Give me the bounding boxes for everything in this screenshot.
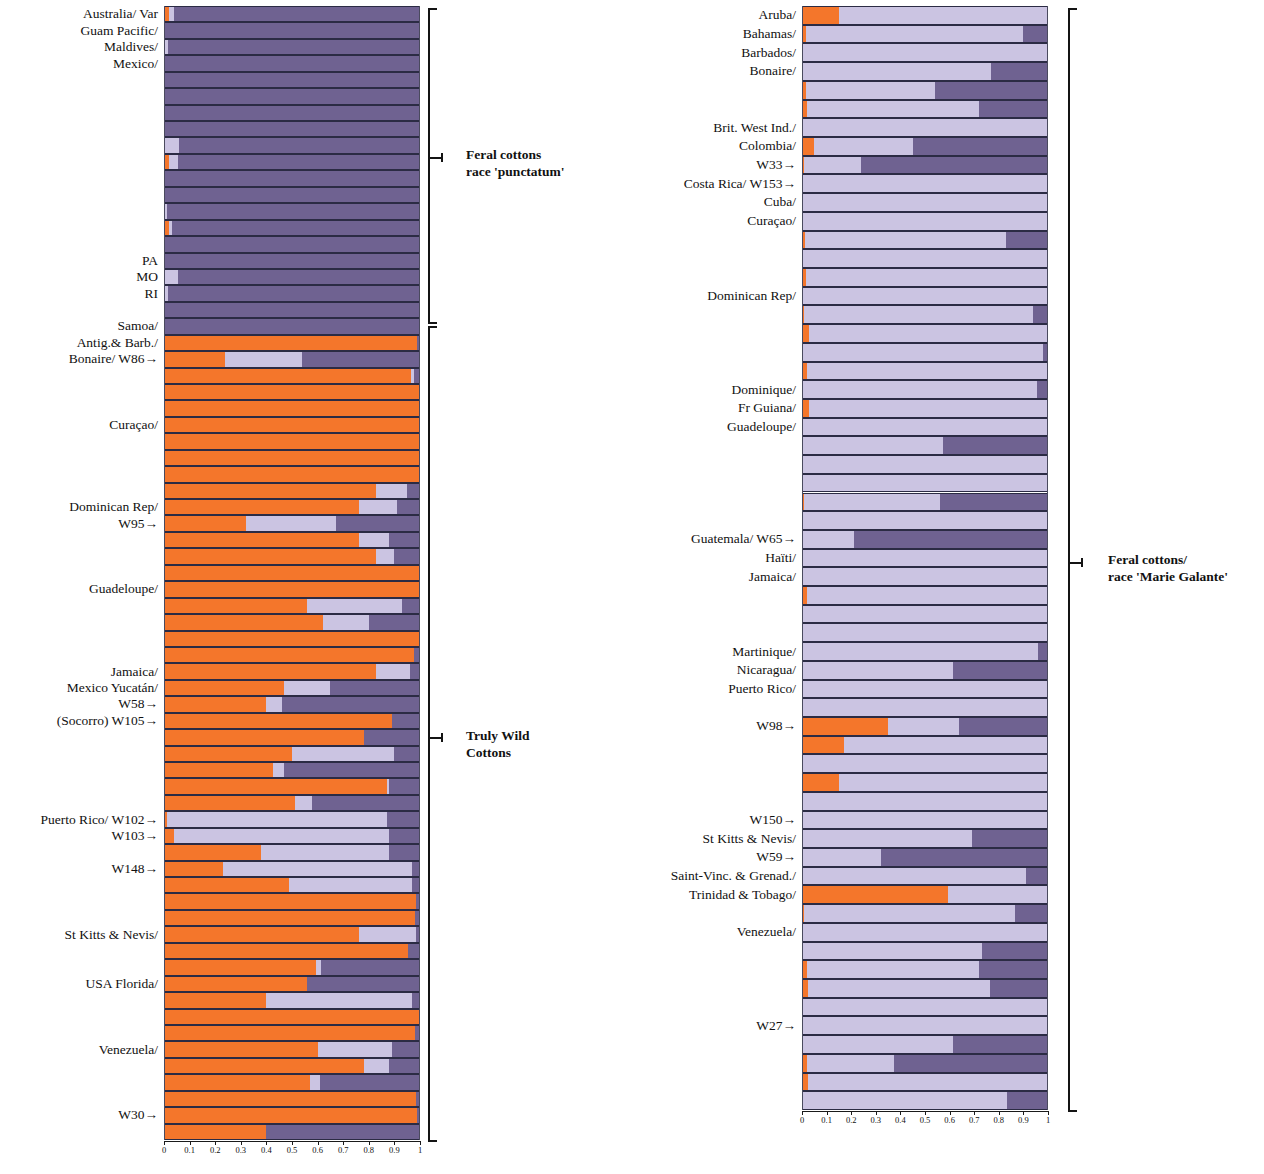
- row-label: Puerto Rico/ W102→: [41, 813, 159, 826]
- bar-segment-cluster2: [164, 270, 178, 284]
- bar-segment-cluster1: [164, 894, 416, 908]
- bar-segment-cluster3: [1038, 643, 1048, 660]
- bar-row: [164, 976, 420, 992]
- bar-row: [802, 530, 1048, 549]
- bar-segment-cluster3: [402, 599, 420, 613]
- row-label: Guatemala/ W65→: [691, 532, 796, 545]
- row-label: MO: [136, 270, 158, 283]
- bar-segment-cluster3: [407, 484, 420, 498]
- bar-segment-cluster2: [802, 381, 1037, 398]
- axis-tick-label: 1: [1046, 1115, 1050, 1125]
- bar-segment-cluster2: [359, 533, 390, 547]
- bar-segment-cluster2: [804, 905, 1014, 922]
- bar-segment-cluster2: [261, 845, 389, 859]
- bar-segment-cluster3: [164, 237, 420, 251]
- bar-row: [802, 137, 1048, 156]
- axis-tick-label: 0.8: [993, 1115, 1004, 1125]
- bar-segment-cluster2: [839, 774, 1048, 791]
- bar-segment-cluster2: [802, 943, 982, 960]
- row-label: W58→: [118, 697, 158, 710]
- bar-segment-cluster3: [168, 40, 420, 54]
- bar-row: [164, 811, 420, 827]
- bar-row: [802, 6, 1048, 25]
- bar-segment-cluster1: [164, 484, 376, 498]
- bar-segment-cluster3: [164, 23, 420, 37]
- bar-segment-cluster2: [802, 213, 1048, 230]
- bar-segment-cluster1: [802, 325, 809, 342]
- bar-segment-cluster3: [392, 714, 420, 728]
- bar-row: [164, 795, 420, 811]
- bar-row: [802, 754, 1048, 773]
- annotation-truly-wild: Truly Wild Cottons: [466, 727, 529, 761]
- bar-row: [802, 249, 1048, 268]
- bar-segment-cluster3: [953, 662, 1048, 679]
- bar-segment-cluster2: [802, 812, 1048, 829]
- bar-segment-cluster2: [359, 927, 417, 941]
- row-label: W30→: [118, 1108, 158, 1121]
- bar-row: [802, 605, 1048, 624]
- bar-segment-cluster3: [410, 664, 420, 678]
- row-label: Costa Rica/ W153→: [684, 177, 796, 190]
- bar-segment-cluster3: [389, 1059, 420, 1073]
- bar-row: [164, 746, 420, 762]
- bar-segment-cluster1: [164, 664, 376, 678]
- bar-segment-cluster3: [415, 1026, 420, 1040]
- bar-row: [164, 1074, 420, 1090]
- row-label: Antig.& Barb./: [77, 336, 158, 349]
- row-label: St Kitts & Nevis/: [65, 928, 158, 941]
- bar-segment-cluster1: [164, 730, 364, 744]
- axis-tick-label: 0.7: [338, 1145, 349, 1155]
- bar-row: [164, 778, 420, 794]
- bar-row: [164, 844, 420, 860]
- bar-segment-cluster3: [1026, 868, 1048, 885]
- bar-segment-cluster2: [802, 288, 1048, 305]
- bar-row: [164, 72, 420, 88]
- row-label: Venezuela/: [99, 1043, 158, 1056]
- bar-segment-cluster1: [164, 1092, 416, 1106]
- bar-segment-cluster2: [802, 194, 1048, 211]
- bar-segment-cluster2: [802, 681, 1048, 698]
- bar-segment-cluster1: [164, 599, 307, 613]
- bar-segment-cluster1: [164, 615, 323, 629]
- bar-segment-cluster3: [982, 943, 1048, 960]
- row-label: W103→: [112, 829, 159, 842]
- bar-row: [164, 926, 420, 942]
- bar-segment-cluster3: [416, 1092, 420, 1106]
- bar-segment-cluster3: [881, 849, 1048, 866]
- bar-segment-cluster1: [164, 451, 420, 465]
- bar-segment-cluster1: [164, 697, 266, 711]
- bar-segment-cluster3: [164, 254, 420, 268]
- bar-row: [802, 773, 1048, 792]
- bar-segment-cluster3: [959, 718, 1048, 735]
- row-label: Bahamas/: [743, 27, 796, 40]
- bar-row: [802, 43, 1048, 62]
- bar-row: [802, 1054, 1048, 1073]
- bar-segment-cluster2: [807, 101, 979, 118]
- bar-segment-cluster2: [802, 755, 1048, 772]
- bar-segment-cluster1: [164, 549, 376, 563]
- bar-segment-cluster3: [940, 494, 1048, 511]
- bar-row: [802, 455, 1048, 474]
- annotation-line-2: Cottons: [466, 744, 529, 761]
- bar-segment-cluster1: [164, 944, 408, 958]
- bar-row: [164, 483, 420, 499]
- bar-row: [164, 285, 420, 301]
- bar-segment-cluster3: [953, 1036, 1048, 1053]
- bar-segment-cluster2: [806, 269, 1048, 286]
- bar-segment-cluster1: [164, 418, 420, 432]
- row-label: Dominican Rep/: [69, 500, 158, 513]
- row-label: (Socorro) W105→: [57, 714, 158, 727]
- row-label: Dominican Rep/: [707, 289, 796, 302]
- bar-segment-cluster3: [894, 1055, 1048, 1072]
- bar-segment-cluster1: [164, 911, 415, 925]
- bar-segment-cluster2: [808, 1074, 1048, 1091]
- row-label: Colombia/: [739, 139, 796, 152]
- bar-segment-cluster2: [266, 697, 281, 711]
- annotation-line-1: Feral cottons: [466, 146, 565, 163]
- bar-segment-cluster2: [806, 26, 1024, 43]
- bar-segment-cluster2: [805, 232, 1006, 249]
- bar-segment-cluster2: [169, 155, 178, 169]
- left-panel: Australia/ VarGuam Pacific/Maldives/Mexi…: [0, 0, 620, 1174]
- bar-row: [164, 713, 420, 729]
- bar-segment-cluster2: [802, 999, 1048, 1016]
